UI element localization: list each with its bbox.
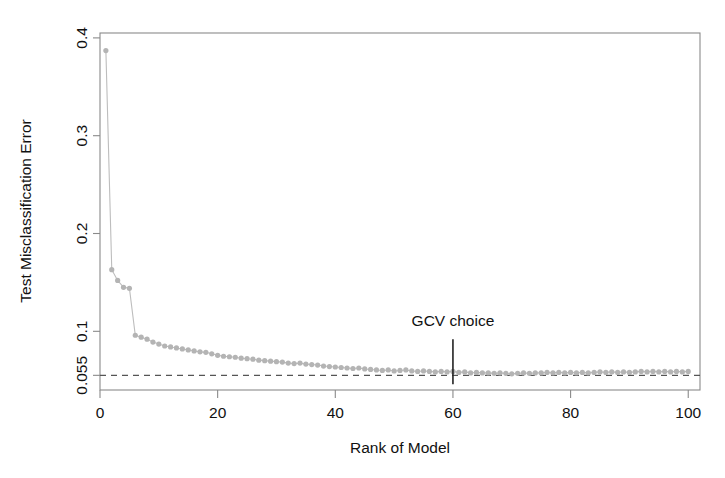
data-point (144, 337, 149, 342)
data-point (515, 371, 520, 376)
error-curve-line (106, 51, 688, 374)
data-point (315, 362, 320, 367)
data-point (603, 370, 608, 375)
data-point (168, 344, 173, 349)
data-point (480, 370, 485, 375)
x-tick-label: 0 (96, 404, 105, 421)
data-point (674, 369, 679, 374)
data-point (121, 285, 126, 290)
data-point (192, 348, 197, 353)
data-point (497, 370, 502, 375)
x-tick-label: 20 (209, 404, 227, 421)
data-point (503, 371, 508, 376)
data-point (544, 370, 549, 375)
data-point (656, 369, 661, 374)
plot-frame (100, 33, 700, 390)
data-point (456, 370, 461, 375)
data-point (586, 370, 591, 375)
data-point (539, 370, 544, 375)
data-point (333, 364, 338, 369)
data-point (521, 370, 526, 375)
data-point (115, 278, 120, 283)
chart-figure: 0.0550.10.20.30.4 020406080100 GCV choic… (0, 0, 725, 478)
data-point (262, 358, 267, 363)
data-point (280, 360, 285, 365)
x-axis-ticks: 020406080100 (96, 390, 702, 421)
data-point (668, 369, 673, 374)
misclassification-error-scatter-chart: 0.0550.10.20.30.4 020406080100 GCV choic… (0, 0, 725, 478)
data-point (639, 369, 644, 374)
data-point (386, 367, 391, 372)
x-tick-label: 60 (444, 404, 462, 421)
data-point (286, 361, 291, 366)
data-point (186, 347, 191, 352)
data-point (321, 363, 326, 368)
data-point (368, 367, 373, 372)
data-point (421, 368, 426, 373)
data-point (509, 371, 514, 376)
data-point (356, 365, 361, 370)
data-point (574, 370, 579, 375)
data-point (433, 369, 438, 374)
data-point (197, 349, 202, 354)
data-point (233, 355, 238, 360)
data-point (468, 370, 473, 375)
error-data-points (103, 48, 691, 376)
data-point (686, 369, 691, 374)
data-point (409, 368, 414, 373)
data-point (462, 369, 467, 374)
x-tick-label: 80 (562, 404, 580, 421)
data-point (250, 357, 255, 362)
y-tick-label: 0.3 (73, 125, 90, 147)
data-point (274, 359, 279, 364)
data-point (615, 370, 620, 375)
x-axis-title: Rank of Model (350, 439, 450, 456)
data-point (627, 370, 632, 375)
data-point (227, 354, 232, 359)
data-point (597, 369, 602, 374)
x-tick-label: 100 (675, 404, 701, 421)
y-tick-label: 0.055 (73, 356, 90, 395)
data-point (621, 369, 626, 374)
data-point (109, 267, 114, 272)
y-tick-label: 0.4 (73, 27, 90, 49)
data-point (297, 361, 302, 366)
data-point (374, 367, 379, 372)
data-point (150, 339, 155, 344)
data-point (156, 341, 161, 346)
y-tick-label: 0.2 (73, 223, 90, 245)
y-axis-ticks: 0.0550.10.20.30.4 (73, 27, 100, 395)
data-point (309, 362, 314, 367)
data-point (397, 368, 402, 373)
data-point (256, 358, 261, 363)
data-point (180, 346, 185, 351)
data-point (486, 370, 491, 375)
data-point (215, 353, 220, 358)
data-point (380, 368, 385, 373)
data-point (339, 365, 344, 370)
data-point (580, 370, 585, 375)
data-point (439, 369, 444, 374)
y-axis-title: Test Misclassification Error (17, 119, 34, 302)
data-point (633, 369, 638, 374)
data-point (239, 356, 244, 361)
data-point (244, 356, 249, 361)
data-point (327, 364, 332, 369)
data-point (103, 48, 108, 53)
data-point (162, 343, 167, 348)
data-point (474, 370, 479, 375)
data-point (533, 370, 538, 375)
data-point (221, 354, 226, 359)
data-point (303, 361, 308, 366)
data-point (644, 369, 649, 374)
data-point (550, 370, 555, 375)
data-point (492, 371, 497, 376)
data-point (568, 370, 573, 375)
data-point (292, 361, 297, 366)
data-point (133, 333, 138, 338)
data-point (344, 365, 349, 370)
data-point (174, 345, 179, 350)
data-point (403, 367, 408, 372)
data-point (203, 350, 208, 355)
data-point (650, 369, 655, 374)
